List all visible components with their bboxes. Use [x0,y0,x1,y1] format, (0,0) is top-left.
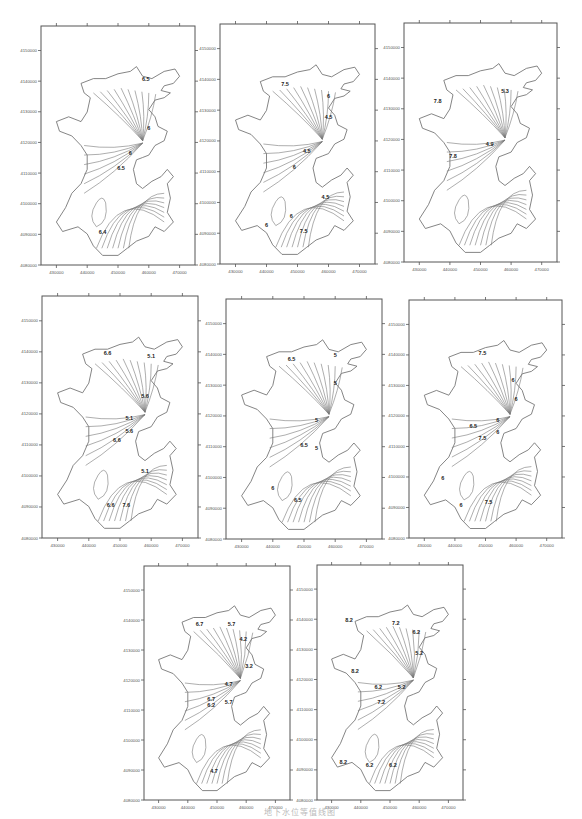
contour-value-label: 6 [496,417,499,423]
contour-value-label: 7.6 [122,502,130,508]
contour-value-label: 4.5 [325,114,333,120]
contour-value-label: 6.4 [99,229,108,235]
contour-value-label: 7.8 [449,153,457,159]
y-tick-label: 4130000 [205,383,222,388]
contour-value-label: 6.5 [117,165,125,171]
x-tick-label: 470000 [175,543,190,548]
figure-caption: 地下水位等值线图 [120,806,480,817]
x-tick-label: 460000 [321,269,336,274]
y-tick-label: 4080000 [383,260,400,265]
contour-value-label: 6 [129,150,132,156]
y-tick-label: 4100000 [388,474,405,479]
x-tick-label: 430000 [234,544,249,549]
contour-map-svg: 4080000409000041000004110000412000041300… [317,565,463,800]
contour-value-label: 6.2 [374,684,382,690]
contour-value-label: 6 [515,396,518,402]
contour-value-label: 6 [293,164,296,170]
y-tick-label: 4110000 [22,442,39,447]
y-tick-label: 4140000 [296,617,313,622]
y-tick-label: 4120000 [296,677,313,682]
contour-value-label: 7.2 [377,699,385,705]
y-tick-label: 4140000 [199,77,216,82]
contour-value-label: 5 [315,445,318,451]
y-tick-label: 4120000 [388,413,405,418]
y-tick-label: 4120000 [21,411,38,416]
contour-map-panel-4: 4080000409000041000004110000412000041300… [42,296,198,538]
y-tick-label: 4140000 [383,76,400,81]
contour-map-panel-2: 4080000409000041000004110000412000041300… [220,24,375,264]
y-tick-label: 4130000 [20,109,37,114]
contour-value-label: 4.5 [322,194,330,200]
contour-map-panel-3: 4080000409000041000004110000412000041300… [404,23,557,262]
contour-value-label: 6 [496,429,499,435]
contour-value-label: 8.2 [351,668,359,674]
contour-value-label: 4.5 [303,148,311,154]
y-tick-label: 4110000 [21,171,38,176]
y-tick-label: 4080000 [20,263,37,268]
y-tick-label: 4100000 [123,738,140,743]
contour-value-label: 4.2 [239,636,247,642]
y-tick-label: 4150000 [205,321,222,326]
x-tick-label: 450000 [290,269,305,274]
y-tick-label: 4120000 [383,137,400,142]
y-tick-label: 4110000 [297,707,314,712]
contour-value-label: 6.5 [288,356,296,362]
contour-value-label: 5.7 [228,621,236,627]
contour-map-svg: 4080000409000041000004110000412000041300… [41,26,195,265]
x-tick-label: 450000 [478,543,493,548]
contour-value-label: 4.7 [210,768,218,774]
x-tick-label: 440000 [266,544,281,549]
x-tick-label: 460000 [144,543,159,548]
contour-map-panel-5: 4080000409000041000004110000412000041300… [226,299,382,539]
contour-value-label: 6.6 [107,502,115,508]
map-frame [226,299,382,539]
contour-value-label: 7.8 [434,98,442,104]
contour-value-label: 4.7 [225,681,233,687]
contour-value-label: 6.7 [196,621,204,627]
x-tick-label: 440000 [80,270,95,275]
contour-value-label: 7.5 [281,81,289,87]
contour-value-label: 6.6 [104,350,112,356]
contour-value-label: 5.6 [141,393,149,399]
x-tick-label: 430000 [228,269,243,274]
contour-value-label: 8.2 [345,617,353,623]
map-frame [144,566,290,800]
x-tick-label: 450000 [111,270,126,275]
contour-value-label: 5.7 [225,699,233,705]
y-tick-label: 4080000 [21,536,38,541]
y-tick-label: 4150000 [199,46,216,51]
y-tick-label: 4130000 [388,383,405,388]
y-tick-label: 4130000 [296,647,313,652]
y-tick-label: 4110000 [384,168,401,173]
y-tick-label: 4120000 [205,413,222,418]
contour-map-panel-8: 4080000409000041000004110000412000041300… [317,565,463,800]
contour-value-label: 8.2 [339,759,347,765]
contour-value-label: 7.5 [479,350,487,356]
y-tick-label: 4150000 [388,322,405,327]
y-tick-label: 4140000 [388,352,405,357]
y-tick-label: 4140000 [205,352,222,357]
x-tick-label: 440000 [259,269,274,274]
contour-value-label: 6.2 [366,762,374,768]
y-tick-label: 4090000 [296,767,313,772]
y-tick-label: 4140000 [20,79,37,84]
x-tick-label: 470000 [352,269,367,274]
contour-map-svg: 4080000409000041000004110000412000041300… [42,296,198,538]
x-tick-label: 460000 [504,267,519,272]
y-tick-label: 4090000 [199,231,216,236]
contour-value-label: 6 [441,475,444,481]
contour-value-label: 5.1 [141,468,149,474]
map-frame [42,296,198,538]
y-tick-label: 4110000 [200,169,217,174]
y-tick-label: 4100000 [21,473,38,478]
contour-map-svg: 4080000409000041000004110000412000041300… [220,24,375,264]
contour-value-label: 6 [327,93,330,99]
contour-value-label: 6 [512,377,515,383]
contour-value-label: 6.5 [294,497,302,503]
y-tick-label: 4110000 [206,444,223,449]
y-tick-label: 4100000 [199,200,216,205]
y-tick-label: 4100000 [205,475,222,480]
contour-value-label: 5.3 [501,88,509,94]
contour-map-svg: 4080000409000041000004110000412000041300… [404,23,557,262]
contour-value-label: 5.1 [147,353,155,359]
